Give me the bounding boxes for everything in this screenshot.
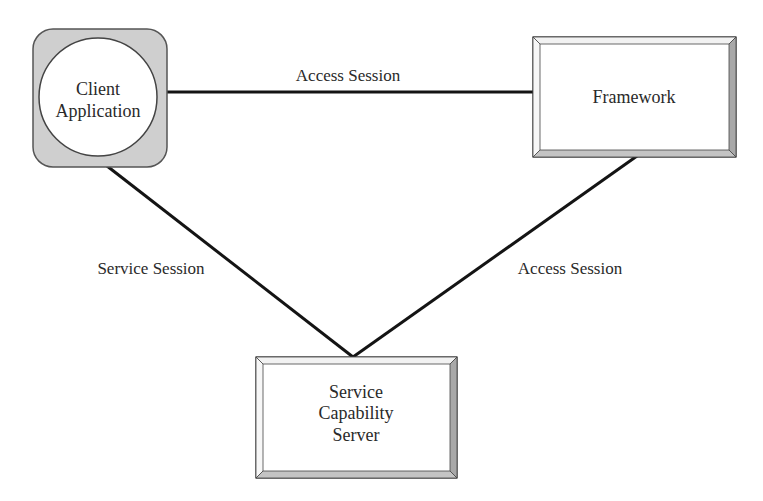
diagram-canvas: Access Session Service Session Access Se…: [0, 0, 763, 501]
node-service-capability-server[interactable]: Service Capability Server: [256, 357, 457, 478]
node-framework[interactable]: Framework: [533, 37, 736, 157]
node-label-line: Application: [56, 101, 141, 121]
node-label-line: Capability: [319, 403, 394, 423]
node-label-line: Service: [329, 382, 383, 402]
node-label-line: Server: [333, 425, 380, 445]
edge-label-client-framework: Access Session: [296, 66, 401, 85]
node-label-line: Framework: [593, 87, 676, 107]
edge-label-framework-server: Access Session: [518, 259, 623, 278]
node-label-line: Client: [76, 79, 120, 99]
node-client-application[interactable]: Client Application: [33, 29, 167, 167]
edge-framework-server: [353, 156, 637, 357]
edge-label-client-server: Service Session: [97, 259, 205, 278]
